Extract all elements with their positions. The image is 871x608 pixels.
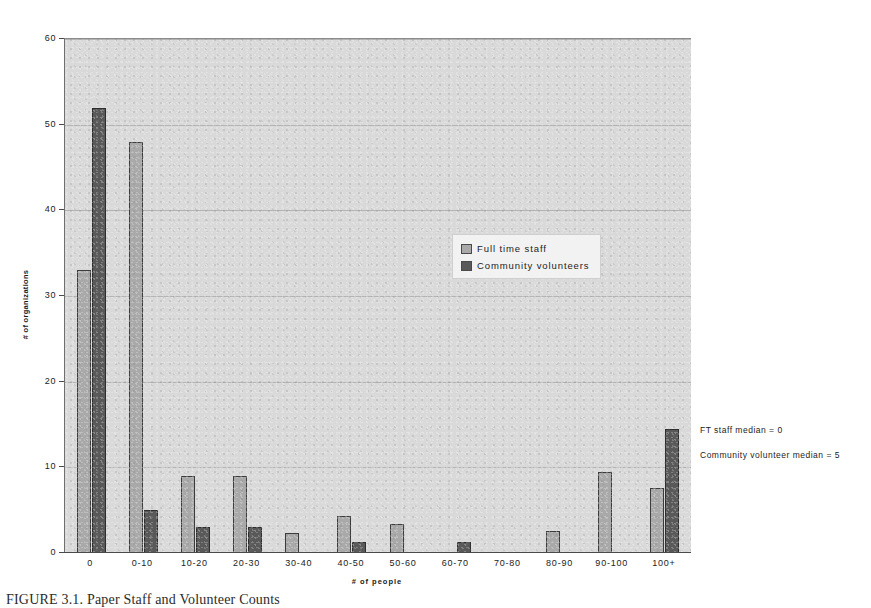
annotation-community-volunteer-median: Community volunteer median = 5 xyxy=(700,449,860,462)
x-axis-tick-label-100-: 100+ xyxy=(652,558,675,568)
x-axis-tick-label-10-20: 10-20 xyxy=(181,558,208,568)
bar-full-time-staff-100- xyxy=(650,488,664,553)
bar-full-time-staff-20-30 xyxy=(233,476,247,553)
bar-community-volunteers-20-30 xyxy=(248,527,262,553)
bar-community-volunteers-10-20 xyxy=(196,527,210,553)
y-tick-10 xyxy=(59,466,64,467)
figure-caption: FIGURE 3.1. Paper Staff and Volunteer Co… xyxy=(6,592,706,608)
y-axis-title: # of organizations xyxy=(21,250,30,360)
x-axis-tick-label-40-50: 40-50 xyxy=(337,558,364,568)
x-axis-title: # of people xyxy=(64,577,690,586)
gridline-60 xyxy=(65,39,691,40)
x-axis-tick-label-70-80: 70-80 xyxy=(494,558,521,568)
legend-swatch-icon-community-volunteers xyxy=(461,261,472,271)
legend-item-community-volunteers: Community volunteers xyxy=(461,260,590,271)
y-tick-50 xyxy=(59,124,64,125)
y-axis-tick-label-10: 10 xyxy=(16,461,56,471)
y-axis-tick-label-50: 50 xyxy=(16,119,56,129)
x-axis-tick-label-0-10: 0-10 xyxy=(132,558,153,568)
x-axis-tick-label-20-30: 20-30 xyxy=(233,558,260,568)
chart-legend: Full time staff Community volunteers xyxy=(452,234,601,279)
bar-community-volunteers-0-10 xyxy=(144,510,158,553)
y-tick-0 xyxy=(59,552,64,553)
y-tick-40 xyxy=(59,209,64,210)
bar-community-volunteers-100- xyxy=(665,429,679,553)
x-axis-tick-label-50-60: 50-60 xyxy=(390,558,417,568)
chart-annotations: FT staff median = 0 Community volunteer … xyxy=(700,424,860,462)
bar-full-time-staff-80-90 xyxy=(546,531,560,553)
annotation-ft-staff-median: FT staff median = 0 xyxy=(700,424,860,437)
bar-full-time-staff-30-40 xyxy=(285,533,299,553)
bar-full-time-staff-0 xyxy=(77,270,91,553)
x-axis-tick-label-30-40: 30-40 xyxy=(285,558,312,568)
legend-swatch-icon-full-time-staff xyxy=(461,244,472,254)
x-axis-labels: 00-1010-2020-3030-4040-5050-6060-7070-80… xyxy=(64,558,690,574)
bar-full-time-staff-90-100 xyxy=(598,472,612,553)
y-axis-tick-label-0: 0 xyxy=(16,547,56,557)
bar-full-time-staff-50-60 xyxy=(390,524,404,553)
bar-full-time-staff-10-20 xyxy=(181,476,195,553)
y-tick-20 xyxy=(59,381,64,382)
y-axis-tick-label-60: 60 xyxy=(16,33,56,43)
x-axis-line xyxy=(64,552,691,553)
legend-label-community-volunteers: Community volunteers xyxy=(477,260,590,271)
x-axis-tick-label-90-100: 90-100 xyxy=(595,558,628,568)
bar-full-time-staff-40-50 xyxy=(337,516,351,553)
gridline-50 xyxy=(65,125,691,126)
gridline-10 xyxy=(65,467,691,468)
y-tick-30 xyxy=(59,295,64,296)
y-axis-tick-label-40: 40 xyxy=(16,204,56,214)
bar-full-time-staff-0-10 xyxy=(129,142,143,553)
bar-community-volunteers-0 xyxy=(92,108,106,553)
x-axis-tick-label-60-70: 60-70 xyxy=(442,558,469,568)
figure-container: 0102030405060 # of organizations 00-1010… xyxy=(0,0,871,608)
y-tick-60 xyxy=(59,38,64,39)
x-axis-tick-label-0: 0 xyxy=(87,558,93,568)
legend-item-full-time-staff: Full time staff xyxy=(461,243,590,254)
chart-plot-area xyxy=(64,38,691,553)
gridline-40 xyxy=(65,210,691,211)
x-axis-tick-label-80-90: 80-90 xyxy=(546,558,573,568)
gridline-20 xyxy=(65,382,691,383)
y-axis-labels: 0102030405060 xyxy=(8,0,56,608)
y-axis-tick-label-20: 20 xyxy=(16,376,56,386)
gridline-30 xyxy=(65,296,691,297)
legend-label-full-time-staff: Full time staff xyxy=(477,243,547,254)
